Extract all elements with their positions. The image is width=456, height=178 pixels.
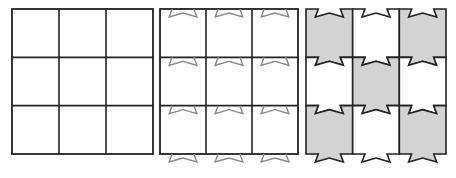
notch-outline (169, 57, 197, 65)
notch-outline (169, 9, 197, 17)
tessellation-diagram (0, 0, 456, 178)
notch-outline (169, 154, 197, 162)
notch-outline (261, 9, 289, 17)
notch-outline (261, 106, 289, 114)
interlocking-tile-grid-panel (306, 9, 446, 162)
grid-border (160, 9, 298, 154)
grid-border (12, 9, 153, 154)
notch-outline-grid-panel (160, 9, 298, 162)
notch-outline (215, 57, 243, 65)
shaded-tile (306, 106, 353, 162)
notch-outline (261, 57, 289, 65)
notch-outline (215, 106, 243, 114)
notch-outline (169, 106, 197, 114)
square-grid-panel (12, 9, 153, 154)
notch-outline (215, 154, 243, 162)
white-tile (353, 106, 400, 162)
notch-outline (261, 154, 289, 162)
shaded-tile (399, 106, 446, 162)
notch-outline (215, 9, 243, 17)
